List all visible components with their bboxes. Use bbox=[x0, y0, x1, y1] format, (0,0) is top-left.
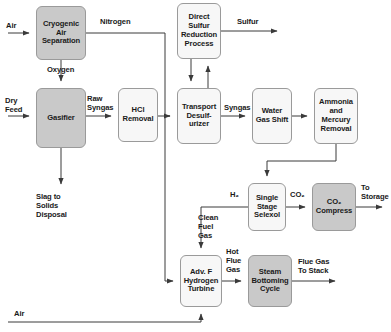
node-gasifier[interactable]: Gasifier bbox=[36, 88, 86, 148]
stream-label-slag-to-solids-disposal: Slag to Solids Disposal bbox=[36, 193, 67, 220]
node-adv-f-hydrogen-turbine[interactable]: Adv. F Hydrogen Turbine bbox=[180, 255, 222, 307]
node-cryogenic-air-separation[interactable]: Cryogenic Air Separation bbox=[36, 6, 86, 60]
stream-label-dry-feed: Dry Feed bbox=[5, 97, 22, 115]
node-label: Single Stage Selexol bbox=[250, 194, 284, 221]
stream-label-h2: H₂ bbox=[230, 191, 239, 200]
node-label: Cryogenic Air Separation bbox=[38, 20, 84, 47]
stream-label-to-storage: To Storage bbox=[361, 184, 389, 202]
stream-label-nitrogen: Nitrogen bbox=[100, 18, 130, 27]
node-label: Steam Bottoming Cycle bbox=[250, 268, 290, 295]
stream-label-co2: CO₂ bbox=[290, 191, 304, 200]
node-single-stage-selexol[interactable]: Single Stage Selexol bbox=[248, 183, 286, 231]
node-label: CO₂ Compress bbox=[314, 198, 354, 216]
stream-label-hot-flue-gas: Hot Flue Gas bbox=[226, 248, 241, 275]
wire-air-bottom-to-turbine bbox=[8, 314, 201, 322]
node-label: Direct Sulfur Reduction Process bbox=[179, 13, 219, 49]
stream-label-air-in: Air bbox=[6, 22, 16, 31]
stream-label-clean-fuel-gas: Clean Fuel Gas bbox=[198, 214, 218, 241]
wire-nitrogen-to-turbine bbox=[165, 116, 173, 281]
node-label: Transport Desulf- urizer bbox=[179, 103, 219, 130]
node-steam-bottoming-cycle[interactable]: Steam Bottoming Cycle bbox=[248, 255, 292, 307]
wire-ammonia-to-selexol bbox=[267, 144, 336, 176]
node-transport-desulfurizer[interactable]: Transport Desulf- urizer bbox=[177, 88, 221, 144]
node-water-gas-shift[interactable]: Water Gas Shift bbox=[252, 88, 292, 144]
stream-label-sulfur: Sulfur bbox=[237, 18, 258, 27]
node-label: Water Gas Shift bbox=[254, 107, 290, 125]
node-direct-sulfur-reduction-process[interactable]: Direct Sulfur Reduction Process bbox=[177, 3, 221, 59]
process-flow-diagram: Cryogenic Air Separation Gasifier HCl Re… bbox=[0, 0, 391, 332]
node-label: Gasifier bbox=[47, 114, 74, 123]
node-hcl-removal[interactable]: HCl Removal bbox=[118, 88, 158, 142]
node-label: HCl Removal bbox=[120, 106, 156, 124]
stream-label-syngas: Syngas bbox=[224, 104, 250, 113]
stream-label-raw-syngas: Raw Syngas bbox=[87, 95, 113, 113]
node-label: Ammonia and Mercury Removal bbox=[316, 98, 356, 134]
node-label: Adv. F Hydrogen Turbine bbox=[182, 268, 220, 295]
stream-label-air-bottom: Air bbox=[14, 310, 24, 319]
node-co2-compress[interactable]: CO₂ Compress bbox=[312, 183, 356, 231]
stream-label-flue-gas-to-stack: Flue Gas To Stack bbox=[298, 258, 329, 276]
node-ammonia-and-mercury-removal[interactable]: Ammonia and Mercury Removal bbox=[314, 88, 358, 144]
stream-label-oxygen: Oxygen bbox=[47, 66, 74, 75]
